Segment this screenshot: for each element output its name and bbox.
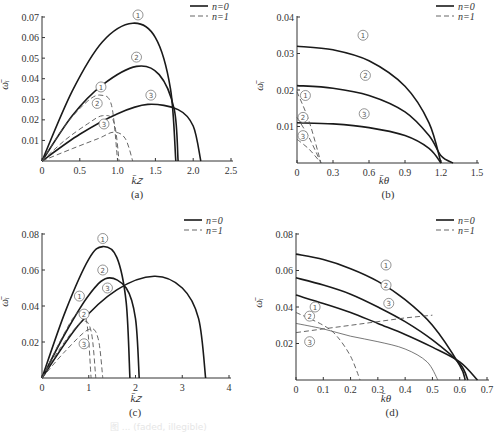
y-tick-label: 0.01 (22, 135, 40, 146)
y-tick-label: 0.04 (276, 302, 294, 313)
panel-a: 00.51.01.52.02.50.010.020.030.040.050.06… (0, 1, 237, 202)
series-label: 1 (361, 32, 365, 40)
y-tick-label: 0.06 (22, 265, 40, 276)
series-label: 3 (301, 133, 305, 141)
y-tick-label: 0.06 (276, 265, 294, 276)
x-tick-label: 0 (40, 165, 45, 176)
legend: n=0n=1 (436, 1, 475, 22)
series-line (42, 132, 133, 161)
y-axis-title: ω̄ᵢ (0, 296, 10, 307)
x-tick-label: 0.3 (327, 167, 340, 178)
y-axis-title: ω̄ᵢ (253, 80, 265, 91)
x-tick-label: 0.1 (317, 384, 330, 395)
x-tick-label: 4 (227, 382, 232, 393)
series-label: 1 (303, 92, 307, 100)
y-tick-label: 0.04 (22, 301, 40, 312)
panel-d: 00.10.20.30.40.50.60.70.020.040.060.08ω̄… (252, 215, 493, 420)
panel-label: (a) (131, 188, 144, 201)
series-line (296, 254, 465, 380)
series-label: 2 (307, 313, 311, 321)
y-axis-title: ω̄ᵢ (0, 79, 10, 90)
x-tick-label: 1.5 (471, 167, 484, 178)
series-label: 1 (313, 304, 317, 312)
x-axis-title: k̄𝑧 (131, 392, 144, 404)
y-tick-label: 0.02 (277, 85, 295, 96)
legend: n=0n=1 (190, 1, 229, 22)
series-label: 3 (105, 285, 109, 293)
series-label: 1 (384, 262, 388, 270)
panel-c: 012340.020.040.060.08ω̄ᵢk̄𝑧123123n=0n=1(… (0, 215, 232, 420)
x-tick-label: 0.4 (399, 384, 412, 395)
legend-dashed-label: n=1 (458, 225, 475, 236)
x-tick-label: 0.7 (481, 384, 494, 395)
legend: n=0n=1 (436, 215, 475, 236)
x-tick-label: 2.5 (225, 165, 238, 176)
x-axis-title: k̄θ (379, 174, 390, 186)
x-tick-label: 0 (295, 167, 300, 178)
x-tick-label: 2.0 (187, 165, 200, 176)
x-tick-label: 0 (40, 382, 45, 393)
panel-label: (b) (382, 188, 395, 201)
y-axis-title: ω̄ᵢ (252, 297, 264, 308)
y-tick-label: 0.04 (277, 12, 295, 23)
x-tick-label: 1.0 (111, 165, 124, 176)
panel-label: (c) (129, 406, 142, 419)
y-tick-label: 0.04 (22, 73, 40, 84)
series-line (297, 92, 321, 163)
y-tick-label: 0.08 (276, 229, 294, 240)
x-tick-label: 0 (294, 384, 299, 395)
series-label: 2 (363, 72, 367, 80)
series-label: 1 (136, 12, 140, 20)
series-label: 3 (149, 92, 153, 100)
y-tick-label: 0.02 (22, 337, 40, 348)
series-line (296, 313, 360, 381)
series-label: 3 (307, 339, 311, 347)
series-label: 2 (82, 311, 86, 319)
series-label: 3 (362, 111, 366, 119)
series-label: 1 (77, 293, 81, 301)
panel-label: (d) (386, 406, 399, 419)
y-tick-label: 0.06 (22, 32, 40, 43)
x-tick-label: 0.2 (344, 384, 357, 395)
legend-dashed-label: n=1 (206, 225, 223, 236)
y-tick-label: 0.02 (276, 338, 294, 349)
x-tick-label: 0.9 (399, 167, 412, 178)
y-tick-label: 0.07 (22, 12, 40, 23)
series-label: 2 (301, 114, 305, 122)
x-tick-label: 1.2 (435, 167, 448, 178)
legend-dashed-label: n=1 (458, 11, 475, 22)
legend-dashed-label: n=1 (212, 11, 229, 22)
y-tick-label: 0.08 (22, 229, 40, 240)
series-label: 2 (95, 100, 99, 108)
x-axis-title: k̄𝑧 (132, 174, 145, 186)
series-line (296, 323, 438, 380)
legend: n=0n=1 (184, 215, 223, 236)
panel-b: 00.30.60.91.21.50.010.020.030.04ω̄ᵢk̄θ12… (253, 1, 483, 202)
series-label: 3 (387, 300, 391, 308)
series-label: 2 (101, 267, 105, 275)
y-tick-label: 0.01 (277, 121, 295, 132)
x-tick-label: 0.5 (426, 384, 439, 395)
y-tick-label: 0.03 (22, 94, 40, 105)
series-label: 1 (99, 84, 103, 92)
series-line (42, 276, 206, 378)
series-line (297, 46, 441, 163)
y-tick-label: 0.05 (22, 53, 40, 64)
x-axis-title: k̄θ (381, 392, 392, 404)
figure-caption: 图 ... (faded, illegible) (110, 422, 207, 432)
series-line (297, 139, 321, 163)
x-tick-label: 1.5 (149, 165, 162, 176)
figure: 00.51.01.52.02.50.010.020.030.040.050.06… (0, 0, 503, 434)
series-label: 3 (102, 121, 106, 129)
series-line (42, 23, 176, 161)
x-tick-label: 0.6 (453, 384, 466, 395)
x-tick-label: 0.5 (74, 165, 87, 176)
series-label: 1 (101, 236, 105, 244)
y-tick-label: 0.02 (22, 114, 40, 125)
x-tick-label: 3 (180, 382, 185, 393)
series-label: 2 (134, 54, 138, 62)
series-label: 2 (384, 282, 388, 290)
y-tick-label: 0.03 (277, 48, 295, 59)
series-label: 3 (82, 341, 86, 349)
x-tick-label: 0.6 (363, 167, 376, 178)
